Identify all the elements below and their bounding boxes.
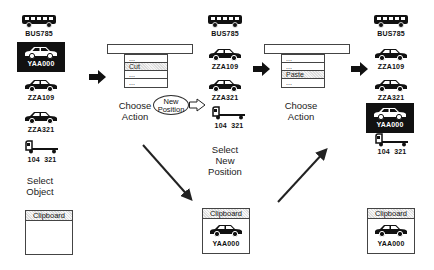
arrow-to-clipboard xyxy=(143,145,190,198)
arrow-from-clipboard xyxy=(278,151,325,202)
flow-arrows xyxy=(0,0,434,270)
